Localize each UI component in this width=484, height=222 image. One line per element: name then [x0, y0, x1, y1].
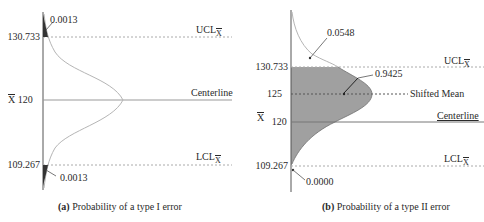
panel-a-caption-prefix: (a) — [58, 201, 70, 212]
panel-a-ucl-label: UCLX — [196, 24, 222, 37]
panel-b-caption-text: Probability of a type II error — [337, 201, 450, 212]
panel-b-shaded-value: 0.9425 — [375, 68, 403, 80]
panel-b-upper-leader — [310, 38, 327, 58]
panel-b-lower-leader — [293, 170, 305, 180]
panel-b-upper-dot — [309, 57, 311, 59]
panel-b-lcl-subscript: X — [463, 157, 469, 169]
panel-b-lcl-label: LCLX — [444, 153, 469, 166]
panel-a-centerline-label: Centerline — [191, 87, 233, 99]
panel-b-ucl-value: 130.733 — [246, 61, 288, 73]
panel-b-caption: (b) Probability of a type II error — [322, 201, 450, 212]
panel-b-ucl-subscript: X — [464, 59, 470, 71]
panel-a-lcl-value: 109.267 — [0, 159, 40, 171]
panel-a-center-number: 120 — [18, 94, 33, 105]
panel-b-shaded-leader-tail — [358, 75, 373, 78]
panel-a-ucl-value: 130.733 — [0, 31, 40, 43]
panel-b-center-number: 120 — [272, 116, 287, 127]
panel-a-ucl-text: UCL — [196, 24, 216, 35]
panel-b-lcl-text: LCL — [444, 153, 463, 164]
panel-b-shifted-dot — [343, 93, 345, 95]
panel-b-upper-tail-value: 0.0548 — [327, 27, 355, 39]
control-chart-diagram — [0, 0, 484, 222]
panel-b-xbar-symbol: X — [257, 112, 264, 124]
panel-b-ucl-text: UCL — [444, 55, 464, 66]
panel-b-shifted-value: 125 — [246, 88, 282, 100]
panel-b-centerline-label: Centerline — [437, 110, 479, 122]
panel-a-lcl-text: LCL — [196, 151, 215, 162]
panel-a-normal-curve — [44, 14, 123, 188]
panel-a-ucl-subscript: X — [216, 28, 222, 40]
panel-b-shifted-mean-label: Shifted Mean — [410, 88, 464, 100]
panel-b-lcl-value: 109.267 — [246, 160, 288, 172]
panel-b-shaded-area — [291, 67, 372, 166]
panel-a-caption: (a) Probability of a type I error — [58, 201, 182, 212]
panel-a-lcl-label: LCLX — [196, 151, 221, 164]
panel-a-lower-tail — [43, 165, 48, 186]
panel-b-caption-prefix: (b) — [322, 201, 334, 212]
panel-a-lower-tail-value: 0.0013 — [60, 172, 88, 184]
panel-a-lower-leader — [46, 170, 56, 176]
panel-b-center-value: X 120 — [257, 112, 287, 124]
panel-a-lcl-subscript: X — [215, 155, 221, 167]
panel-b-lower-tail-value: 0.0000 — [306, 176, 334, 188]
panel-b-ucl-label: UCLX — [444, 55, 470, 68]
panel-a-upper-tail-value: 0.0013 — [50, 14, 78, 26]
panel-b-upper-curve — [292, 12, 338, 67]
panel-a-caption-text: Probability of a type I error — [72, 201, 182, 212]
panel-a-xbar-symbol: X — [8, 94, 15, 106]
panel-a-center-value: X 120 — [8, 94, 33, 106]
